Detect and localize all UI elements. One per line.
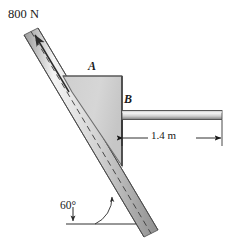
horizontal-bar <box>122 111 222 120</box>
statics-figure: 800 N A B 1.4 m 60° <box>0 0 237 238</box>
figure-canvas <box>0 0 237 238</box>
force-label: 800 N <box>8 8 39 21</box>
angle-arc <box>95 197 112 224</box>
point-a-label: A <box>88 60 96 72</box>
dimension-label: 1.4 m <box>151 130 176 141</box>
collar-block <box>63 76 122 166</box>
angle-label: 60° <box>60 200 76 212</box>
point-b-label: B <box>124 93 132 105</box>
force-arrow-800n <box>35 35 69 92</box>
